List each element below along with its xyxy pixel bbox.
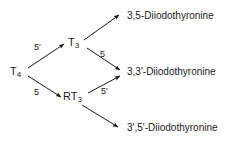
edge-label-t4-to-rt3: 5 — [34, 88, 39, 97]
arrow-rt3-to-diiodothyronine-3p5p — [82, 105, 118, 127]
node-t4-subscript: 4 — [17, 70, 21, 79]
node-rt3-subscript: 3 — [77, 95, 81, 104]
node-t3: T3 — [68, 37, 79, 48]
product-label-diiodothyronine-35: 3,5-Diiodothyronine — [127, 11, 214, 21]
node-rt3: RT3 — [63, 91, 82, 102]
edge-label-t3-to-diiodothyronine-33: 5 — [100, 50, 105, 59]
node-t3-base: T — [68, 36, 75, 48]
product-label-diiodothyronine-3p5p: 3',5'-Diiodothyronine — [127, 123, 218, 133]
node-t3-subscript: 3 — [75, 41, 79, 50]
arrow-t4-to-rt3 — [28, 76, 61, 97]
node-rt3-base: RT — [63, 90, 77, 102]
arrow-t3-to-diiodothyronine-35 — [84, 15, 119, 40]
node-t4: T4 — [10, 66, 21, 77]
edge-label-t4-to-t3: 5' — [34, 43, 41, 52]
product-label-diiodothyronine-33: 3,3'-Diiodothyronine — [127, 67, 216, 77]
edge-label-rt3-to-diiodothyronine-33: 5' — [101, 87, 108, 96]
pathway-diagram: T4 T3 RT3 5' 5 5 5' 3,5-Diiodothyronine … — [0, 0, 231, 146]
node-t4-base: T — [10, 65, 17, 77]
